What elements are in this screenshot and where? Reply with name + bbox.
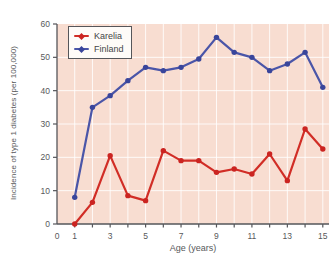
legend: Karelia Finland: [68, 26, 132, 59]
finland-point-age-13: [285, 61, 290, 66]
legend-label-finland: Finland: [94, 43, 124, 55]
finland-point-age-2: [90, 105, 95, 110]
y-tick-label: 0: [45, 219, 50, 229]
x-tick-label: 3: [108, 231, 113, 241]
x-tick-label: 15: [318, 231, 328, 241]
x-tick-label: 5: [143, 231, 148, 241]
finland-point-age-9: [214, 35, 219, 40]
karelia-point-age-7: [178, 158, 183, 163]
karelia-point-age-13: [285, 178, 290, 183]
x-tick-label: 11: [248, 231, 257, 241]
finland-point-age-7: [178, 65, 183, 70]
karelia-point-age-5: [143, 198, 148, 203]
karelia-point-age-6: [161, 148, 166, 153]
legend-item-finland: Finland: [74, 43, 124, 55]
karelia-point-age-1: [72, 221, 77, 226]
finland-diamond-swatch: [78, 45, 85, 52]
finland-point-age-10: [231, 50, 236, 55]
finland-marker-icon: [74, 45, 89, 54]
finland-point-age-4: [125, 78, 130, 83]
karelia-point-age-8: [196, 158, 201, 163]
finland-point-age-8: [196, 56, 201, 61]
karelia-point-age-10: [231, 166, 236, 171]
legend-label-karelia: Karelia: [94, 30, 122, 42]
karelia-point-age-11: [249, 171, 254, 176]
finland-point-age-3: [107, 93, 112, 98]
chart-svg: 0102030405060013579111315: [0, 0, 336, 264]
finland-point-age-6: [161, 68, 166, 73]
finland-point-age-5: [143, 65, 148, 70]
finland-point-age-12: [267, 68, 272, 73]
y-tick-label: 50: [41, 52, 51, 62]
karelia-point-age-9: [214, 170, 219, 175]
x-tick-label: 9: [214, 231, 219, 241]
finland-point-age-15: [320, 85, 325, 90]
y-tick-label: 30: [41, 119, 51, 129]
finland-point-age-14: [302, 50, 307, 55]
y-tick-label: 60: [41, 19, 51, 29]
y-tick-label: 10: [41, 186, 51, 196]
karelia-point-age-2: [90, 200, 95, 205]
x-axis-label: Age (years): [57, 243, 329, 253]
x-tick-label: 7: [179, 231, 184, 241]
finland-point-age-11: [249, 55, 254, 60]
y-tick-label: 20: [41, 152, 51, 162]
x-tick-label: 13: [283, 231, 293, 241]
karelia-point-age-12: [267, 151, 272, 156]
karelia-point-age-3: [107, 153, 112, 158]
karelia-marker-icon: [74, 32, 89, 41]
karelia-diamond-swatch: [78, 32, 85, 39]
y-tick-label: 40: [41, 86, 51, 96]
karelia-point-age-14: [302, 126, 307, 131]
karelia-point-age-15: [320, 146, 325, 151]
y-axis-label: Incidence of type 1 diabetes (per 100,00…: [9, 46, 18, 200]
x-tick-label: 1: [72, 231, 77, 241]
x-tick-label: 0: [55, 231, 60, 241]
karelia-point-age-4: [125, 193, 130, 198]
legend-item-karelia: Karelia: [74, 30, 124, 42]
finland-point-age-1: [72, 195, 77, 200]
chart: 0102030405060013579111315 Incidence of t…: [0, 0, 336, 264]
